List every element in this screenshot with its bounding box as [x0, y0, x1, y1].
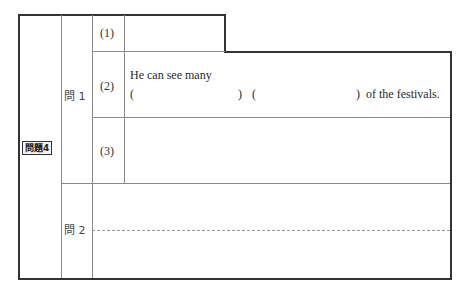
- item-2-open-paren-1: (: [130, 87, 134, 101]
- outer-border-top-right: [224, 51, 452, 53]
- item-2-blank-2[interactable]: [259, 86, 355, 102]
- row-divider-1-2: [92, 51, 225, 52]
- item-3-answer-cell[interactable]: [125, 118, 450, 183]
- item-1-number: (1): [100, 26, 114, 40]
- question-2-label: 問 2: [64, 224, 86, 238]
- q2-answer-cell[interactable]: [93, 184, 450, 278]
- item-2-close-paren-2: ): [356, 87, 360, 101]
- item-1-answer-cell[interactable]: [125, 15, 224, 51]
- question-1-label: 問 1: [64, 90, 86, 104]
- outer-border-right: [450, 51, 452, 280]
- item-2-open-paren-2: (: [252, 87, 256, 101]
- outer-border-bottom: [18, 278, 452, 280]
- problem-label-badge: 問題4: [22, 141, 52, 155]
- outer-border-step-vertical: [224, 14, 226, 53]
- outer-border-left: [18, 14, 20, 280]
- item-2-sentence-suffix: of the festivals.: [366, 87, 440, 101]
- item-3-number: (3): [100, 144, 114, 158]
- item-2-close-paren-1: ): [238, 87, 242, 101]
- item-2-blank-1[interactable]: [137, 86, 237, 102]
- col-divider-problem: [61, 15, 62, 278]
- item-2-sentence-line1: He can see many: [130, 68, 212, 82]
- item-2-number: (2): [100, 79, 114, 93]
